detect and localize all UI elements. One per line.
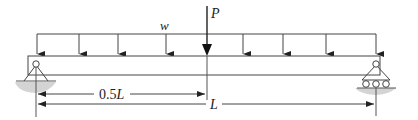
span-label: L — [209, 97, 218, 112]
beam — [28, 56, 380, 75]
half-span-label: 0.5L — [99, 87, 125, 102]
point-load-label: P — [210, 6, 220, 21]
beam-diagram: w P 0.5L L — [0, 0, 418, 120]
distributed-load-label: w — [160, 18, 169, 33]
